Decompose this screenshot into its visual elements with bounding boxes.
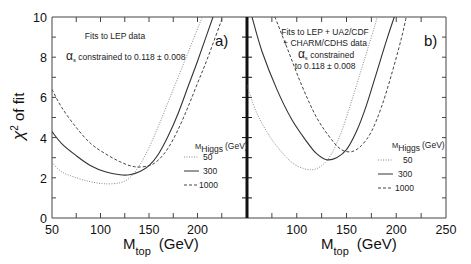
panel-b-annotation-line4: to 0.118 ± 0.008 <box>295 61 356 71</box>
y-tick-label: 10 <box>33 11 47 25</box>
x-axis-title-b: Mtop(GeV) <box>321 235 397 257</box>
x-tick-label: 150 <box>336 223 357 237</box>
panel-a-annotation-line1: Fits to LEP data <box>85 31 146 41</box>
panel-b-annotation-line1: Fits to LEP + UA2/CDF <box>281 27 368 37</box>
legend-item-50: 50 <box>403 155 413 165</box>
panel-b-annotation-line3: αs constrained <box>298 47 355 61</box>
legend-item-300: 300 <box>203 166 217 176</box>
panel-a-label: a) <box>215 32 228 49</box>
y-tick-label: 8 <box>40 51 47 65</box>
y-tick-label: 0 <box>40 212 47 226</box>
panel-a-annotation-line2: αs constrained to 0.118 ± 0.008 <box>66 49 186 63</box>
y-tick-label: 2 <box>40 172 47 186</box>
x-tick-label: 150 <box>139 223 160 237</box>
legend-panel-b: MHiggs(GeV) 50 300 1000 <box>378 140 445 193</box>
legend-title: MHiggs(GeV) <box>392 140 445 153</box>
x-axis-title-a: Mtop(GeV) <box>123 235 199 257</box>
alpha-symbol: α <box>66 49 73 63</box>
chi2-vs-mtop-figure: 501001502000246810100150200250 Fits to L… <box>0 0 471 264</box>
y-tick-label: 4 <box>40 132 47 146</box>
x-tick-label: 100 <box>90 223 111 237</box>
legend-item-1000: 1000 <box>199 180 218 190</box>
x-tick-label: 50 <box>45 223 59 237</box>
curve-mhiggs-50 <box>52 17 202 184</box>
legend-item-50: 50 <box>203 152 213 162</box>
legend-panel-a: MHiggs(GeV) 50 300 1000 <box>184 141 248 190</box>
x-tick-label: 250 <box>436 223 457 237</box>
panel-b-annotation-line2: + CHARM/CDHS data <box>283 38 367 48</box>
y-tick-label: 6 <box>40 91 47 105</box>
x-tick-label: 100 <box>286 223 307 237</box>
axis-ticks <box>52 17 446 218</box>
legend-item-1000: 1000 <box>395 183 414 193</box>
panel-b-label: b) <box>424 32 437 49</box>
axis-tick-labels: 501001502000246810100150200250 <box>33 11 456 237</box>
y-axis-title: χ2 of fit <box>9 92 28 142</box>
legend-item-300: 300 <box>398 169 412 179</box>
